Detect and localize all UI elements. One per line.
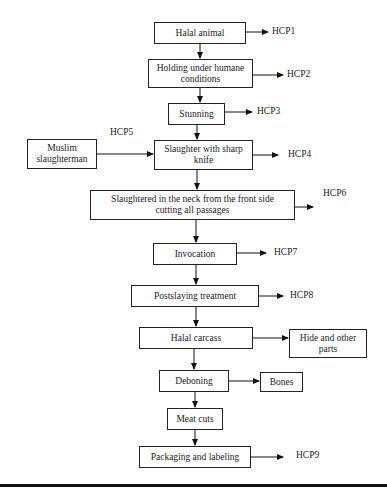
output-label-line2: parts: [319, 344, 337, 355]
hcp8-label: HCP8: [290, 290, 313, 301]
hcp4-label: HCP4: [288, 149, 311, 160]
step-label: Stunning: [179, 109, 213, 120]
step-invocation: Invocation: [153, 243, 237, 265]
step-label: Postslaying treatment: [154, 291, 236, 302]
step-label-line1: Slaughter with sharp: [164, 144, 243, 155]
step-meat-cuts: Meat cuts: [167, 408, 223, 430]
step-stunning: Stunning: [168, 103, 225, 125]
output-hide-other-parts: Hide and otherparts: [289, 329, 367, 358]
step-label-line1: Holding under humane: [157, 63, 245, 74]
step-label: Invocation: [175, 249, 216, 260]
step-label-line2: conditions: [181, 74, 221, 85]
bottom-rule: [0, 484, 387, 487]
step-holding: Holding under humaneconditions: [148, 59, 253, 88]
step-halal-animal: Halal animal: [154, 22, 246, 44]
hcp7-label: HCP7: [274, 247, 297, 258]
hcp5-label: HCP5: [110, 127, 133, 138]
step-label: Halal carcass: [171, 333, 221, 344]
step-label: Halal animal: [176, 28, 225, 39]
output-label-line1: Hide and other: [300, 333, 356, 344]
step-postslaying: Postslaying treatment: [131, 285, 259, 307]
step-packaging-labeling: Packaging and labeling: [139, 446, 251, 468]
step-label: Meat cuts: [176, 414, 213, 425]
hcp2-label: HCP2: [287, 69, 310, 80]
step-label: Packaging and labeling: [151, 452, 240, 463]
output-bones: Bones: [260, 372, 303, 392]
input-label-line2: slaughterman: [36, 154, 87, 165]
step-label-line2: cutting all passages: [156, 205, 230, 216]
hcp1-label: HCP1: [272, 26, 295, 37]
step-label-line1: Slaughtered in the neck from the front s…: [111, 194, 274, 205]
hcp3-label: HCP3: [257, 106, 280, 117]
step-deboning: Deboning: [159, 370, 229, 392]
output-label: Bones: [270, 377, 294, 388]
step-slaughter-sharp-knife: Slaughter with sharpknife: [154, 140, 253, 170]
step-neck-cut: Slaughtered in the neck from the front s…: [90, 190, 295, 220]
hcp6-label: HCP6: [323, 188, 346, 199]
step-label-line2: knife: [194, 155, 214, 166]
step-label: Deboning: [175, 376, 212, 387]
hcp9-label: HCP9: [296, 450, 319, 461]
input-muslim-slaughterman: Muslimslaughterman: [27, 139, 97, 169]
input-label-line1: Muslim: [47, 143, 77, 154]
step-halal-carcass: Halal carcass: [139, 327, 253, 349]
